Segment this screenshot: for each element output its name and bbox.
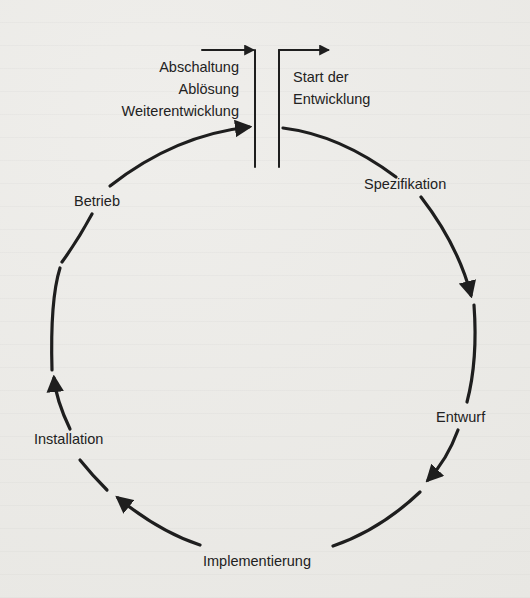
exit-label-abschaltung: Abschaltung	[86, 56, 239, 78]
phase-label-entwurf: Entwurf	[436, 406, 485, 428]
lifecycle-diagram	[0, 0, 530, 598]
exit-label-abloesung: Ablösung	[86, 78, 239, 100]
phase-label-spezifikation: Spezifikation	[364, 173, 446, 195]
exit-label-weiterentwicklung: Weiterentwicklung	[86, 100, 239, 122]
phase-label-installation: Installation	[34, 428, 103, 450]
arc-start-to-spezifikation	[283, 128, 396, 177]
arc-implementierung-to-installation	[118, 498, 200, 545]
exit-labels: Abschaltung Ablösung Weiterentwicklung	[86, 56, 239, 122]
start-label-line1: Start der	[293, 66, 370, 88]
arc-installation-lower	[80, 460, 107, 490]
phase-label-betrieb: Betrieb	[74, 190, 120, 212]
arc-entwurf-to-implementierung	[428, 430, 458, 480]
phase-label-implementierung: Implementierung	[203, 550, 311, 572]
arc-betrieb-lower	[62, 214, 92, 262]
arc-entwurf-upper	[467, 305, 475, 402]
arc-spezifikation-to-entwurf	[421, 197, 471, 295]
start-labels: Start der Entwicklung	[293, 66, 370, 110]
start-label-line2: Entwicklung	[293, 88, 370, 110]
arc-betrieb-to-exit	[110, 127, 249, 186]
arc-implementierung-right	[333, 492, 420, 546]
arc-installation-up	[54, 378, 70, 429]
arc-left	[52, 268, 60, 370]
